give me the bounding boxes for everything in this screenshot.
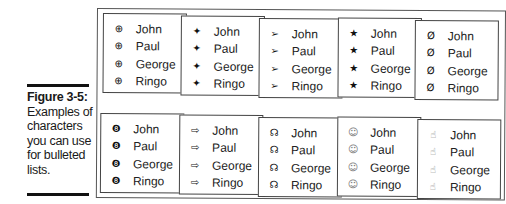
list-item-name: Paul <box>292 44 316 58</box>
list-item: ⊕Ringo <box>111 73 185 91</box>
figure-caption-text: Examples of characters you can use for b… <box>27 105 92 177</box>
figure-label: Figure 3-5: <box>27 90 103 105</box>
list-item: ØRingo <box>423 79 497 97</box>
list-item-name: Paul <box>214 42 238 56</box>
list-item-name: John <box>292 27 318 41</box>
outline-arrow-icon: ⇨ <box>188 178 202 188</box>
caption-rule-top <box>27 84 89 87</box>
bullet-example-panel: ❽John❽Paul❽George❽Ringo <box>100 113 184 194</box>
list-item: ☊Ringo <box>267 177 341 195</box>
list-item: ØGeorge <box>424 62 498 80</box>
star-icon: ★ <box>347 63 361 73</box>
list-item-name: Paul <box>370 143 394 157</box>
list-item-name: Paul <box>291 143 315 157</box>
headphones-icon: ☊ <box>267 180 281 190</box>
list-item: ☺George <box>346 159 420 177</box>
bullet-example-panel: ⊕John⊕Paul⊕George⊕Ringo <box>102 13 186 94</box>
list-item-name: John <box>212 123 238 137</box>
list-item: ⊕Paul <box>112 38 186 56</box>
smiley-icon: ☺ <box>346 162 360 172</box>
crossed-loop-icon: Ø <box>424 66 438 76</box>
list-item: ØPaul <box>424 44 498 62</box>
headphones-icon: ☊ <box>267 163 281 173</box>
list-item-name: John <box>450 128 476 142</box>
list-item-name: Ringo <box>447 81 478 95</box>
outline-arrow-icon: ⇨ <box>188 160 202 170</box>
circled-cross-icon: ⊕ <box>112 59 126 69</box>
list-item: ⇨Paul <box>188 139 262 157</box>
list-item: ★Paul <box>347 42 421 60</box>
star-icon: ★ <box>347 46 361 56</box>
list-item: ⇨John <box>188 122 262 140</box>
list-item-name: George <box>214 59 254 73</box>
crossed-loop-icon: Ø <box>424 31 438 41</box>
list-item-name: George <box>448 64 488 78</box>
list-item: ✦John <box>190 23 264 41</box>
list-item: ☝Ringo <box>426 179 500 197</box>
list-item-name: Ringo <box>450 180 481 194</box>
list-item: ➢John <box>268 25 342 43</box>
list-item-name: George <box>136 57 176 71</box>
list-item: ❽George <box>109 155 183 173</box>
four-point-star-icon: ✦ <box>190 61 204 71</box>
list-item-name: George <box>292 62 332 76</box>
smiley-icon: ☺ <box>346 180 360 190</box>
list-item: ❽John <box>109 120 183 138</box>
outline-arrow-icon: ⇨ <box>188 143 202 153</box>
bullet-example-panel: ☺John☺Paul☺George☺Ringo <box>337 116 421 197</box>
list-item: ✦George <box>190 58 264 76</box>
list-item: ☝George <box>426 161 500 179</box>
dark-circle-icon: ❽ <box>109 124 123 134</box>
list-item-name: John <box>291 126 317 140</box>
list-item: ⇨Ringo <box>188 174 262 192</box>
list-item: ☊Paul <box>267 142 341 160</box>
list-item-name: Paul <box>448 46 472 60</box>
dark-circle-icon: ❽ <box>109 176 123 186</box>
list-item: ★Ringo <box>346 77 420 95</box>
hand-icon: ☝ <box>426 147 440 157</box>
list-item-name: Ringo <box>133 174 164 188</box>
list-item-name: Ringo <box>291 79 322 93</box>
list-item-name: Paul <box>212 141 236 155</box>
list-item: ☺John <box>346 124 420 142</box>
list-item-name: Ringo <box>213 77 244 91</box>
list-item: ⊕George <box>112 55 186 73</box>
circled-cross-icon: ⊕ <box>112 41 126 51</box>
list-item: ✦Paul <box>190 40 264 58</box>
hand-icon: ☝ <box>426 130 440 140</box>
bullet-example-panel: ✦John✦Paul✦George✦Ringo <box>180 16 264 97</box>
hand-icon: ☝ <box>426 182 440 192</box>
four-point-star-icon: ✦ <box>190 79 204 89</box>
list-item-name: John <box>371 26 397 40</box>
list-item-name: George <box>370 160 410 174</box>
list-item-name: George <box>133 157 173 171</box>
list-item-name: Paul <box>450 145 474 159</box>
smiley-icon: ☺ <box>346 127 360 137</box>
list-item-name: Ringo <box>370 79 401 93</box>
list-item: ☊George <box>267 159 341 177</box>
bullet-example-panel: ⇨John⇨Paul⇨George⇨Ringo <box>179 115 263 196</box>
list-item-name: John <box>133 122 159 136</box>
circled-cross-icon: ⊕ <box>112 76 126 86</box>
four-point-star-icon: ✦ <box>190 26 204 36</box>
star-icon: ★ <box>346 81 360 91</box>
outline-arrow-icon: ⇨ <box>188 125 202 135</box>
list-item: ☝Paul <box>426 144 500 162</box>
list-item: ☝John <box>426 126 500 144</box>
headphones-icon: ☊ <box>267 145 281 155</box>
list-item-name: John <box>136 22 162 36</box>
crossed-loop-icon: Ø <box>423 83 437 93</box>
hand-icon: ☝ <box>426 165 440 175</box>
bullet-example-panel: ☝John☝Paul☝George☝Ringo <box>417 119 501 200</box>
list-item-name: George <box>291 161 331 175</box>
caption-rule-bottom <box>27 193 89 196</box>
bullet-example-panel: ★John★Paul★George★Ringo <box>337 17 421 98</box>
four-point-star-icon: ✦ <box>190 44 204 54</box>
list-item: ⇨George <box>188 157 262 175</box>
list-item-name: Paul <box>133 139 157 153</box>
list-item-name: Ringo <box>291 178 322 192</box>
arrowhead-icon: ➢ <box>267 81 281 91</box>
star-icon: ★ <box>347 28 361 38</box>
list-item-name: Paul <box>136 39 160 53</box>
list-item-name: Ringo <box>136 74 167 88</box>
